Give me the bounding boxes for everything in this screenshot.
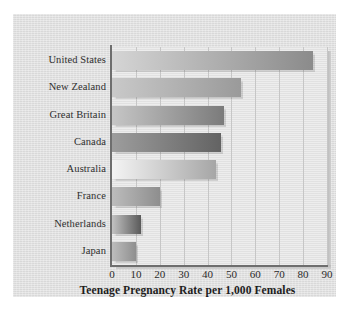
x-tick-label: 80 (291, 268, 315, 280)
x-tick-label: 60 (243, 268, 267, 280)
x-axis-line (110, 265, 328, 267)
chart-figure: United StatesNew ZealandGreat BritainCan… (0, 0, 349, 311)
bar (112, 133, 221, 152)
plot-area (112, 47, 327, 265)
category-label: Great Britain (18, 109, 106, 120)
x-tick-label: 90 (315, 268, 339, 280)
category-label: Australia (18, 163, 106, 174)
gridline (279, 47, 280, 265)
category-label: Japan (18, 245, 106, 256)
bar (112, 51, 313, 70)
bar (112, 106, 224, 125)
bar (112, 160, 216, 179)
bar (112, 187, 160, 206)
bar (112, 78, 241, 97)
x-tick-label: 70 (267, 268, 291, 280)
x-tick-label: 10 (124, 268, 148, 280)
chart-panel: United StatesNew ZealandGreat BritainCan… (13, 14, 336, 297)
x-tick-label: 30 (172, 268, 196, 280)
bar (112, 215, 141, 234)
gridline (327, 47, 328, 265)
category-label: United States (18, 54, 106, 65)
category-label: Canada (18, 136, 106, 147)
x-tick-label: 50 (219, 268, 243, 280)
category-label: Netherlands (18, 218, 106, 229)
gridline (303, 47, 304, 265)
y-axis-line (110, 45, 112, 267)
gridline (255, 47, 256, 265)
x-axis-title: Teenage Pregnancy Rate per 1,000 Females (26, 284, 349, 296)
x-tick-label: 20 (148, 268, 172, 280)
bar (112, 242, 136, 261)
x-tick-label: 0 (100, 268, 124, 280)
category-label: France (18, 190, 106, 201)
x-tick-label: 40 (196, 268, 220, 280)
category-label: New Zealand (18, 81, 106, 92)
